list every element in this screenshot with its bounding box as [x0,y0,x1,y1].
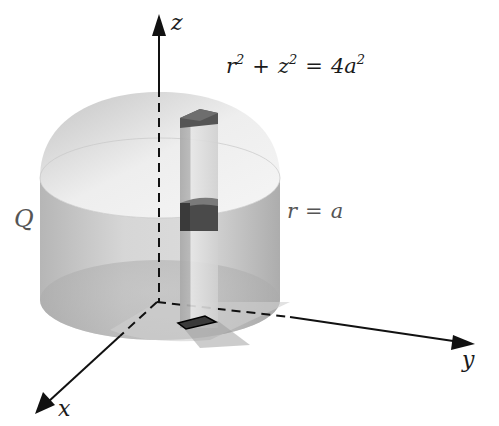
x-axis [48,336,120,402]
x-axis-label: x [58,398,70,420]
y-axis-label: y [462,349,474,371]
eq-r-exponent: 2 [236,52,244,67]
cyl-eq-a: a [331,199,344,223]
eq-z-exponent: 2 [289,52,297,67]
z-axis-arrow-icon [152,14,166,36]
diagram-canvas: z y x Q r2+z2=4a2 r=a [0,0,499,426]
eq-z: z [278,54,289,78]
x-axis-arrow-icon [35,392,55,414]
eq-r: r [226,54,236,78]
eq-4a: 4a [331,54,357,78]
cyl-eq-equals: = [305,199,323,223]
z-axis-label: z [171,12,183,34]
volume-element-dv [180,198,218,231]
eq-equals: = [305,54,323,78]
eq-plus: + [252,54,270,78]
cylinder-equation: r=a [287,201,343,222]
y-axis [290,317,460,342]
eq-4a-exponent: 2 [357,52,365,67]
cyl-eq-r: r [287,199,297,223]
region-label-q: Q [14,207,34,231]
sphere-equation: r2+z2=4a2 [226,56,365,77]
